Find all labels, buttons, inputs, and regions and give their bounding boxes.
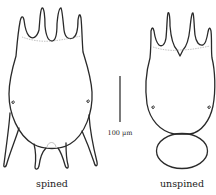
unspined-egg: [157, 134, 208, 169]
unspined-corona-line: [153, 46, 210, 50]
spined-posterior-spine-left: [4, 113, 19, 167]
unspined-lorica-outline: [146, 13, 215, 134]
scale-bar: 100 µm: [108, 76, 133, 137]
spined-foot-opening: [47, 143, 56, 148]
unspined-lateral-antenna-right: [208, 106, 210, 109]
spined-label: spined: [36, 178, 68, 189]
spined-lateral-antenna-right: [87, 100, 89, 103]
spined-lorica-outline: [9, 8, 92, 149]
unspined-lateral-antenna-left: [152, 106, 154, 109]
spined-posterior-spine-right: [82, 115, 97, 166]
unspined-label: unspined: [160, 178, 204, 189]
spined-lateral-antenna-left: [12, 101, 14, 104]
spined-specimen: spined: [4, 8, 97, 189]
rotifer-morphology-figure: spined 100 µm unspined: [0, 0, 216, 195]
unspined-specimen: unspined: [146, 13, 215, 189]
scale-bar-label: 100 µm: [108, 129, 133, 137]
